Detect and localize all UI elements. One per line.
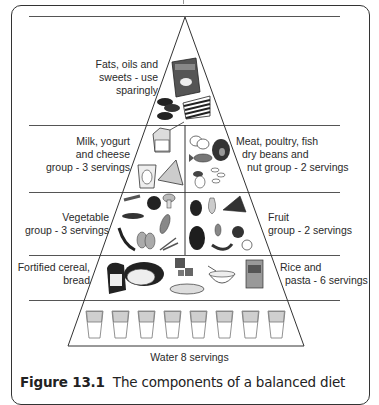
vegetable-label-line: Vegetable [25, 211, 109, 224]
meat-label: Meat, poultry, fish dry beans and nut gr… [236, 135, 349, 174]
chips-bag-icon [172, 58, 200, 97]
cereal-label-line: Fortified cereal, [18, 261, 90, 274]
cereal-label-line: bread [18, 274, 90, 287]
dairy-label-line: Milk, yogurt [46, 135, 130, 148]
water-glass-icon [164, 311, 181, 338]
water-glass-icon [112, 311, 129, 338]
fruit-icons [189, 196, 252, 250]
fruit-label-line: group - 2 servings [268, 224, 352, 237]
yogurt-cup-icon [138, 165, 156, 188]
crackers-icon [175, 258, 193, 276]
ham-icon [212, 139, 230, 161]
vegetable-label: Vegetable group - 3 servings [25, 211, 109, 237]
rice-pasta-label-line: Rice and [280, 261, 368, 274]
beans-icon [193, 171, 205, 188]
meat-label-line: Meat, poultry, fish [236, 135, 349, 148]
pasta-dish-icon [170, 284, 204, 294]
cereal-label: Fortified cereal, bread [18, 261, 90, 287]
figure-number: Figure 13.1 [20, 374, 105, 390]
meat-label-line: dry beans and [236, 148, 349, 161]
fats-label-line: sweets - use [96, 71, 158, 84]
vegetable-icons [119, 194, 178, 250]
water-label: Water 8 servings [0, 351, 379, 363]
dairy-label: Milk, yogurt and cheese group - 3 servin… [46, 135, 130, 174]
eggs-icon [190, 136, 209, 149]
water-glass-icon [190, 311, 207, 338]
fish-icon [189, 154, 212, 162]
water-glass-icon [138, 311, 155, 338]
rice-bowl-icon [208, 266, 235, 283]
water-glass-icon [86, 311, 103, 338]
cereal-box-icon [246, 260, 263, 288]
cookies-icon [157, 98, 180, 120]
water-glass-icon [216, 311, 233, 338]
cheese-wedge-icon [158, 160, 183, 185]
water-glass-icon [268, 311, 285, 338]
rice-pasta-label-line: pasta - 6 servings [280, 274, 368, 287]
meat-label-line: nut group - 2 servings [236, 161, 349, 174]
dairy-label-line: and cheese [46, 148, 130, 161]
fruit-label: Fruit group - 2 servings [268, 211, 352, 237]
nuts-icon [211, 168, 225, 183]
dairy-label-line: group - 3 servings [46, 161, 130, 174]
round-loaf-icon [124, 262, 164, 286]
fats-label-line: Fats, oils and [96, 58, 158, 71]
layer-cake-icon [183, 96, 210, 119]
bread-loaf-icon [107, 263, 126, 294]
figure-caption-text: The components of a balanced diet [113, 374, 345, 390]
figure-caption: Figure 13.1 The components of a balanced… [20, 374, 345, 390]
milk-carton-icon [153, 122, 184, 152]
fats-label: Fats, oils and sweets - use sparingly [96, 58, 158, 97]
rice-pasta-label: Rice and pasta - 6 servings [280, 261, 368, 287]
fruit-label-line: Fruit [268, 211, 352, 224]
water-glasses [86, 311, 285, 338]
vegetable-label-line: group - 3 servings [25, 224, 109, 237]
water-glass-icon [242, 311, 259, 338]
fats-label-line: sparingly [96, 84, 158, 97]
